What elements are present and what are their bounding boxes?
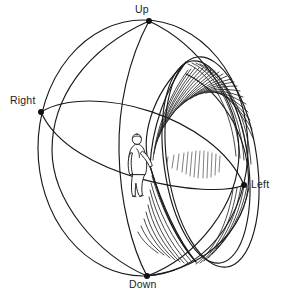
orientation-sphere-illustration — [0, 0, 284, 297]
label-up: Up — [135, 4, 149, 15]
cone-interior-hatch — [167, 151, 220, 178]
person-legs — [131, 175, 144, 196]
view-cone-group — [138, 51, 271, 273]
label-down: Down — [129, 279, 157, 290]
pole-dot-up — [146, 18, 152, 24]
label-right: Right — [10, 95, 36, 106]
pole-dot-left — [241, 182, 247, 188]
person-head — [132, 134, 141, 145]
label-left: Left — [251, 179, 269, 190]
cone-mouth-edge — [146, 62, 196, 262]
diagram-root: Up Down Right Left — [0, 0, 284, 297]
cone-hatch-lower — [138, 176, 194, 263]
pole-dot-right — [38, 109, 44, 115]
cone-wall-lower — [150, 166, 196, 262]
standing-person-figure — [128, 134, 152, 197]
